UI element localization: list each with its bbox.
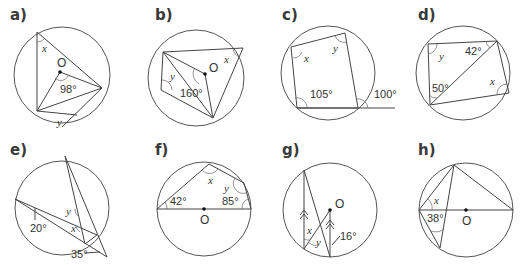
angle-value-160: 160°	[180, 87, 203, 99]
angle-arc-x-f	[202, 169, 218, 174]
angle-value-105: 105°	[310, 88, 333, 100]
center-dot-g	[328, 208, 332, 212]
angle-value-38: 38°	[427, 212, 444, 224]
secant-3-e	[65, 156, 107, 257]
chord-a	[37, 111, 77, 115]
diagram-f: f) O 42° x y 85°	[155, 141, 251, 256]
unknown-x-c: x	[303, 52, 309, 64]
angle-value-16: 16°	[340, 230, 357, 242]
center-label-b: O	[209, 61, 218, 75]
diagram-label-a: a)	[10, 6, 27, 24]
angle-arc-38-h	[431, 229, 444, 232]
center-dot-f	[202, 207, 206, 211]
diagram-e: e) 20° y x 35°	[10, 141, 109, 260]
diagram-label-f: f)	[155, 141, 168, 159]
chord-2-e	[85, 235, 97, 244]
unknown-y-g: y	[315, 236, 321, 248]
circle-c	[281, 26, 375, 120]
diagram-c: c) x y 105° 100°	[281, 6, 397, 120]
diagram-label-g: g)	[282, 141, 300, 159]
center-label-f: O	[200, 213, 209, 227]
unknown-y-e: y	[65, 205, 71, 217]
diagram-label-d: d)	[418, 6, 436, 24]
angle-value-98: 98°	[60, 83, 77, 95]
angle-value-85: 85°	[222, 195, 239, 207]
unknown-y-a: y	[56, 116, 62, 128]
diagram-g: g) O x y 16°	[282, 141, 377, 257]
angle-arc-42-d	[486, 41, 490, 48]
unknown-x-h: x	[433, 194, 439, 206]
diagram-a: a) O x 98° y	[10, 6, 110, 128]
unknown-x-e: x	[70, 222, 76, 234]
unknown-x-f: x	[207, 174, 213, 186]
unknown-x-b: x	[223, 53, 229, 65]
angle-arc-y-d	[428, 44, 437, 54]
unknown-x-a: x	[41, 42, 47, 54]
angle-value-35: 35°	[71, 248, 88, 260]
triangle-2-h	[419, 165, 454, 248]
angle-value-42-f: 42°	[170, 195, 187, 207]
angle-value-100: 100°	[374, 88, 397, 100]
diagram-label-e: e)	[10, 141, 27, 159]
unknown-y-f: y	[223, 182, 229, 194]
angle-value-50: 50°	[432, 82, 449, 94]
leader-16-g	[332, 236, 340, 245]
diagram-b: b) O 160° y x	[148, 6, 244, 126]
center-label-g: O	[335, 197, 344, 211]
center-dot-h	[464, 208, 468, 212]
diagram-label-c: c)	[282, 6, 298, 24]
diagram-label-b: b)	[155, 6, 173, 24]
center-dot-b	[203, 72, 207, 76]
diagram-d: d) y 42° 50° x	[416, 6, 510, 120]
unknown-y-d: y	[438, 50, 444, 62]
angle-arc-x-g	[304, 239, 310, 240]
unknown-x-g: x	[306, 224, 312, 236]
angle-arc-85-f	[242, 199, 248, 209]
center-label-h: O	[462, 214, 471, 228]
diagram-label-h: h)	[418, 141, 436, 159]
angle-value-20: 20°	[30, 222, 47, 234]
diagram-h: h) O x 38°	[418, 141, 513, 257]
unknown-x-d: x	[489, 75, 495, 87]
angle-arc-42-f	[165, 202, 167, 209]
unknown-y-c: y	[332, 42, 338, 54]
angle-value-42-d: 42°	[465, 45, 482, 57]
unknown-y-b: y	[169, 70, 175, 82]
circle-a	[14, 27, 110, 123]
angle-arc-160-b	[193, 69, 199, 84]
angle-arc-x-h	[428, 199, 432, 210]
center-label-a: O	[57, 56, 66, 70]
secant-2-e	[15, 199, 107, 257]
circle-theorem-diagrams: a) O x 98° y b) O 160° y x c) x	[0, 0, 521, 265]
angle-arc-x-c	[293, 52, 302, 58]
center-dot-a	[58, 70, 62, 74]
